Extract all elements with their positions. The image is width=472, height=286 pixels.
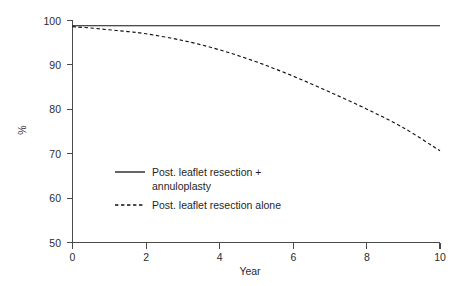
x-tick-label-0: 0 [70,251,76,263]
x-tick-label-6: 6 [290,251,296,263]
y-tick-label-100: 100 [43,15,61,27]
x-tick-label-2: 2 [143,251,149,263]
series-line-resection-alone [73,27,441,151]
y-axis-title: % [16,125,28,134]
chart-legend: Post. leaflet resection + annuloplasty P… [115,166,281,211]
legend-label-annuloplasty-line2: annuloplasty [152,180,212,192]
y-tick-label-80: 80 [49,103,61,115]
legend-label-resection-alone: Post. leaflet resection alone [152,199,281,211]
x-axis-ticks [73,243,441,249]
y-tick-label-50: 50 [49,237,61,249]
y-tick-label-70: 70 [49,148,61,160]
y-axis-ticks [67,21,73,243]
y-tick-label-90: 90 [49,59,61,71]
x-tick-label-4: 4 [217,251,223,263]
legend-label-annuloplasty-line1: Post. leaflet resection + [152,166,261,178]
x-tick-label-10: 10 [434,251,446,263]
x-axis-title: Year [239,265,261,277]
x-tick-label-8: 8 [364,251,370,263]
y-tick-label-60: 60 [49,192,61,204]
chart-container: 100 90 80 70 60 50 0 2 4 6 8 10 Year % [0,0,472,286]
line-chart: 100 90 80 70 60 50 0 2 4 6 8 10 Year % [0,0,472,286]
